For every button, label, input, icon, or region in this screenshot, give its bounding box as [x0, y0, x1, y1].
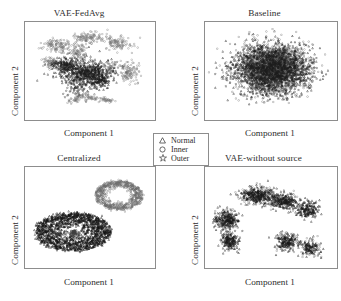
y-axis-label-vae-without-source: Component 2: [190, 215, 201, 265]
plot-area-centralized[interactable]: [24, 166, 156, 269]
y-axis-label-baseline: Component 2: [190, 66, 201, 116]
x-axis-label-baseline: Component 1: [204, 128, 336, 139]
x-axis-label-vae-fedavg: Component 1: [24, 128, 154, 139]
panel-title-centralized: Centralized: [0, 153, 158, 164]
y-axis-label-centralized: Component 2: [10, 215, 21, 265]
x-axis-label-centralized: Component 1: [24, 277, 154, 288]
plot-area-vae-without-source[interactable]: [204, 166, 338, 269]
scatter-canvas-centralized: [25, 167, 155, 268]
scatter-canvas-baseline: [205, 22, 337, 120]
panel-baseline: Baseline Component 2 Component 1: [180, 8, 341, 148]
legend-item-normal: Normal: [157, 136, 205, 145]
panel-title-vae-without-source: VAE-without source: [190, 153, 337, 164]
plot-area-vae-fedavg[interactable]: [24, 21, 156, 121]
scatter-canvas-vae-without-source: [205, 167, 337, 268]
star-marker-icon: [157, 154, 168, 162]
scatter-canvas-vae-fedavg: [25, 22, 155, 120]
panel-title-baseline: Baseline: [194, 8, 335, 19]
triangle-marker-icon: [157, 137, 168, 144]
legend-label-normal: Normal: [168, 136, 195, 145]
panel-vae-fedavg: VAE-FedAvg Component 2 Component 1: [0, 8, 158, 148]
circle-marker-icon: [157, 146, 168, 153]
plot-area-baseline[interactable]: [204, 21, 338, 121]
y-axis-label-vae-fedavg: Component 2: [10, 66, 21, 116]
panel-vae-without-source: VAE-without source Component 2 Component…: [180, 153, 341, 299]
panel-title-vae-fedavg: VAE-FedAvg: [0, 8, 158, 19]
figure-panel-grid: VAE-FedAvg Component 2 Component 1 Basel…: [0, 0, 341, 301]
panel-centralized: Centralized Component 2 Component 1: [0, 153, 158, 299]
x-axis-label-vae-without-source: Component 1: [204, 277, 336, 288]
